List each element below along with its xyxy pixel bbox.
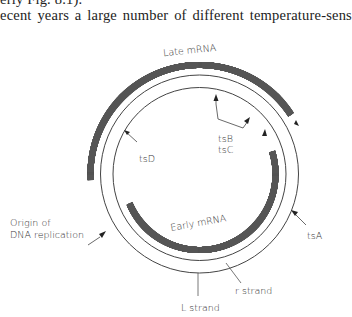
origin-pointer (88, 237, 100, 245)
l-strand-circle (101, 75, 299, 273)
tsc-label: tsC (218, 144, 234, 155)
late-mrna-arrowhead-icon (294, 120, 299, 126)
early-mrna-zigzag (127, 151, 279, 253)
tsa-label: tsA (307, 230, 323, 241)
l-strand-label: L strand (181, 302, 220, 313)
origin-arrowhead-icon (99, 231, 106, 238)
tsa-arrowhead-icon (291, 210, 298, 216)
tsc-arrowhead-icon (244, 117, 250, 124)
late-mrna-zigzag (88, 62, 294, 180)
late-mrna-label: Late mRNA (163, 42, 218, 59)
early-mrna-arrowhead-icon (262, 129, 267, 136)
origin-label-line2: DNA replication (10, 229, 84, 240)
early-mrna-label: Early mRNA (169, 212, 227, 233)
r-strand-label: r strand (235, 285, 272, 296)
tsb-pointer (216, 97, 248, 128)
tsb-label: tsB (218, 133, 233, 144)
tsd-arrowhead-icon (124, 130, 130, 135)
r-strand-circle (113, 88, 286, 261)
tsb-arrowhead-icon (214, 94, 219, 101)
tsd-label: tsD (139, 153, 155, 164)
r-strand-leader (226, 263, 241, 283)
origin-label-line1: Origin of (10, 217, 51, 228)
